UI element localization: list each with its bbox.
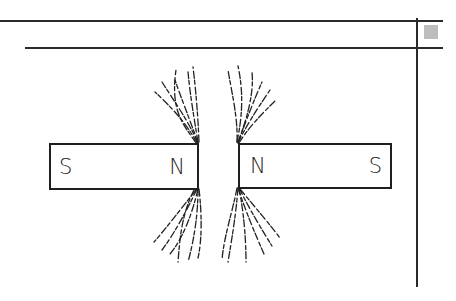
- right-magnet-north-label: N: [250, 154, 266, 178]
- field-line: [237, 66, 242, 142]
- field-line: [228, 70, 237, 142]
- field-line: [238, 90, 270, 143]
- field-line: [198, 189, 201, 258]
- left-magnet: S N: [49, 143, 199, 190]
- field-line: [240, 189, 280, 238]
- right-magnet-south-label: S: [369, 154, 382, 178]
- field-line: [170, 189, 198, 254]
- left-magnet-south-label: S: [59, 155, 72, 179]
- right-magnet: N S: [238, 143, 392, 189]
- field-line: [228, 188, 238, 262]
- field-line: [238, 188, 264, 254]
- left-magnet-north-label: N: [169, 155, 185, 179]
